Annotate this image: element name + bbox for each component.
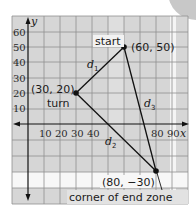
segment-subscript: 2 [112, 142, 116, 150]
y-tick-label: 30 [13, 73, 26, 84]
segment-subscript: 3 [151, 104, 155, 112]
end-label: corner of end zone [69, 191, 173, 204]
x-tick-label: 40 [87, 128, 100, 139]
point-end [153, 168, 159, 174]
coordinate-plane-diagram: y x 60 50 40 30 20 10 10 20 30 40 80 90 … [0, 0, 196, 215]
y-tick-label: 20 [13, 88, 26, 99]
end-coords: (80, −30) [102, 176, 155, 189]
y-tick-label: 40 [13, 57, 26, 68]
y-tick-label: 10 [13, 103, 26, 114]
segment-letter: d [105, 135, 112, 148]
turn-coords: (30, 20) [31, 83, 75, 96]
y-tick-label: 60 [13, 27, 26, 38]
x-tick-label: 80 [151, 128, 164, 139]
start-coords: (60, 50) [131, 41, 175, 54]
turn-label: turn [47, 97, 70, 110]
x-tick-label: 90 [167, 128, 180, 139]
segment-subscript: 1 [94, 65, 98, 73]
start-label: start [95, 35, 121, 48]
x-tick-label: 20 [55, 128, 68, 139]
x-axis-label: x [180, 127, 187, 140]
segment-letter: d [87, 58, 94, 71]
x-tick-label: 10 [39, 128, 52, 139]
x-tick-label: 30 [71, 128, 84, 139]
y-tick-label: 50 [13, 42, 26, 53]
y-axis-label: y [30, 15, 38, 28]
segment-letter: d [144, 97, 151, 110]
